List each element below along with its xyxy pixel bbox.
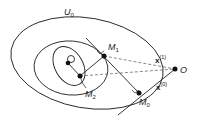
label-m2: M2 xyxy=(85,89,97,100)
point-o xyxy=(173,67,178,72)
tangent-line-m0 xyxy=(118,69,175,115)
point-m2 xyxy=(78,74,83,79)
label-m1: M1 xyxy=(108,42,120,53)
segment-m2-center xyxy=(68,63,80,76)
dashed-line-o-m2 xyxy=(80,69,175,76)
label-u0: U0 xyxy=(64,7,75,18)
point-m0 xyxy=(137,91,142,96)
inner-level-curve xyxy=(46,41,91,91)
middle-level-curve xyxy=(32,38,110,98)
label-o: O xyxy=(180,65,187,75)
diagram: U0 M1 M2 M0 O x(1) x(0) xyxy=(0,0,198,119)
point-center xyxy=(66,61,71,66)
label-m0: M0 xyxy=(139,97,151,108)
label-x0: x(0) xyxy=(156,81,167,92)
segment-m1-m2 xyxy=(80,56,104,76)
label-x1: x(1) xyxy=(155,54,166,65)
point-m1 xyxy=(102,54,107,59)
